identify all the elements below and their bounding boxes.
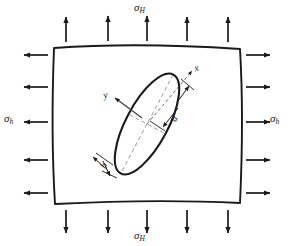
sigma-H-bottom-label: σH (134, 229, 145, 243)
stress-arrows-right (246, 55, 270, 193)
sigma-H-bottom-subscript: H (139, 234, 144, 243)
sigma-h-right-label: σh (270, 112, 279, 126)
sigma-h-left-subscript: h (9, 117, 13, 126)
stress-ellipse-figure: σH σH σh σh x y a b (0, 0, 294, 246)
stress-arrows-top (66, 16, 228, 42)
stress-arrows-left (24, 55, 48, 193)
sigma-h-left-label: σh (4, 112, 13, 126)
sigma-H-top-subscript: H (139, 6, 144, 15)
sigma-h-right-subscript: h (275, 117, 279, 126)
figure-canvas (0, 0, 294, 246)
stress-arrows-bottom (66, 210, 228, 233)
sigma-H-top-label: σH (134, 1, 145, 15)
